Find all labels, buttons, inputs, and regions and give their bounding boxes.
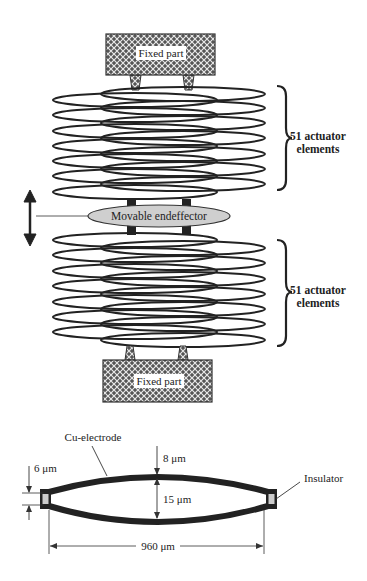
movable-endeffector: Movable endeffector — [88, 205, 230, 227]
upper-actuator-stack — [53, 87, 265, 199]
upper-stack-label-line2: elements — [297, 143, 340, 155]
lower-stack-label-line2: elements — [297, 297, 340, 309]
upper-stack-label-line1: 51 actuator — [290, 130, 346, 142]
fixed-part-bottom: Fixed part — [103, 346, 212, 402]
endeffector-label: Movable endeffector — [111, 210, 207, 222]
double-arrow-icon — [24, 190, 36, 246]
cross-section: Cu-electrode Insulator 8 μm 15 μm 6 μm 9… — [22, 431, 343, 554]
fixed-part-top: Fixed part — [106, 34, 215, 90]
dim-6um: 6 μm — [34, 462, 57, 474]
lower-actuator-stack — [53, 233, 265, 347]
dim-15um: 15 μm — [163, 493, 192, 505]
actuator-diagram: Fixed part 51 actuator elements Movable … — [0, 0, 367, 581]
fixed-part-top-label: Fixed part — [139, 47, 184, 59]
lower-stack-label-line1: 51 actuator — [290, 284, 346, 296]
dim-8um: 8 μm — [163, 452, 186, 464]
fixed-part-bottom-label: Fixed part — [137, 375, 182, 387]
insulator-label: Insulator — [304, 472, 343, 484]
insulator-right — [269, 494, 275, 504]
dim-960um: 960 μm — [141, 540, 175, 552]
cu-electrode-label: Cu-electrode — [65, 431, 122, 443]
insulator-left — [43, 494, 49, 504]
